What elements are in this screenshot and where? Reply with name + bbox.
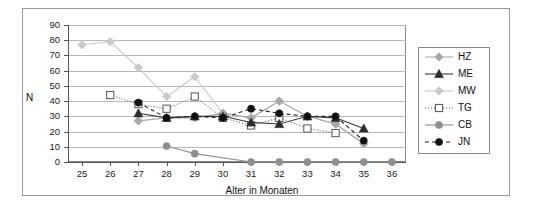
- y-axis-line: [68, 25, 69, 162]
- legend-marker-icon: [423, 49, 455, 65]
- y-axis-title: N: [26, 92, 33, 103]
- y-tick-mark: [64, 71, 68, 72]
- x-tick-mark: [167, 162, 168, 166]
- x-tick-mark: [110, 162, 111, 166]
- legend-label: HZ: [458, 52, 471, 62]
- x-tick-mark: [336, 162, 337, 166]
- x-tick-mark: [392, 162, 393, 166]
- legend-item-mw[interactable]: MW: [419, 82, 489, 99]
- x-tick-mark: [195, 162, 196, 166]
- y-tick-mark: [64, 132, 68, 133]
- chart-figure: 0102030405060708090 25262728293031323334…: [0, 0, 534, 210]
- x-tick-label: 30: [208, 169, 238, 179]
- legend-label: MW: [458, 86, 476, 96]
- x-tick-label: 34: [321, 169, 351, 179]
- x-tick-label: 35: [349, 169, 379, 179]
- y-tick-mark: [64, 40, 68, 41]
- x-tick-mark: [307, 162, 308, 166]
- x-axis-title: Alter in Monaten: [172, 185, 352, 196]
- legend-item-jn[interactable]: JN: [419, 133, 489, 150]
- y-tick-mark: [64, 147, 68, 148]
- legend-marker-icon: [423, 83, 455, 99]
- y-tick-mark: [64, 101, 68, 102]
- plot-area: [68, 25, 406, 162]
- legend-label: ME: [458, 69, 473, 79]
- x-tick-mark: [279, 162, 280, 166]
- legend-item-cb[interactable]: CB: [419, 116, 489, 133]
- y-tick-label: 60: [34, 66, 60, 76]
- legend-marker-icon: [423, 100, 455, 116]
- legend-item-tg[interactable]: TG: [419, 99, 489, 116]
- x-tick-label: 25: [67, 169, 97, 179]
- y-tick-mark: [64, 86, 68, 87]
- y-tick-label: 50: [34, 81, 60, 91]
- legend-item-hz[interactable]: HZ: [419, 48, 489, 65]
- gridline: [68, 101, 406, 102]
- x-tick-mark: [82, 162, 83, 166]
- legend: HZMEMWTGCBJN: [418, 47, 490, 154]
- y-tick-label: 0: [34, 157, 60, 167]
- legend-marker-icon: [423, 66, 455, 82]
- y-tick-mark: [64, 162, 68, 163]
- x-tick-mark: [251, 162, 252, 166]
- legend-label: JN: [458, 137, 470, 147]
- legend-marker-icon: [423, 134, 455, 150]
- y-tick-mark: [64, 116, 68, 117]
- x-tick-mark: [223, 162, 224, 166]
- x-tick-label: 27: [123, 169, 153, 179]
- gridline: [68, 71, 406, 72]
- gridline: [68, 147, 406, 148]
- x-tick-label: 36: [377, 169, 407, 179]
- y-tick-label: 10: [34, 142, 60, 152]
- gridline: [68, 25, 406, 26]
- y-tick-label: 90: [34, 20, 60, 30]
- x-tick-label: 32: [264, 169, 294, 179]
- y-tick-label: 40: [34, 96, 60, 106]
- legend-label: TG: [458, 103, 472, 113]
- gridline: [68, 40, 406, 41]
- y-tick-mark: [64, 55, 68, 56]
- x-tick-label: 29: [180, 169, 210, 179]
- legend-item-me[interactable]: ME: [419, 65, 489, 82]
- gridline: [68, 86, 406, 87]
- x-tick-mark: [364, 162, 365, 166]
- x-tick-label: 33: [292, 169, 322, 179]
- y-tick-mark: [64, 25, 68, 26]
- legend-marker-icon: [423, 117, 455, 133]
- legend-label: CB: [458, 120, 472, 130]
- x-tick-label: 28: [152, 169, 182, 179]
- y-tick-label: 70: [34, 50, 60, 60]
- y-tick-label: 20: [34, 127, 60, 137]
- x-tick-label: 26: [95, 169, 125, 179]
- gridline: [68, 132, 406, 133]
- x-tick-label: 31: [236, 169, 266, 179]
- gridline: [68, 55, 406, 56]
- y-tick-label: 80: [34, 35, 60, 45]
- y-tick-label: 30: [34, 111, 60, 121]
- gridline: [68, 116, 406, 117]
- x-axis-line: [68, 162, 406, 163]
- x-tick-mark: [138, 162, 139, 166]
